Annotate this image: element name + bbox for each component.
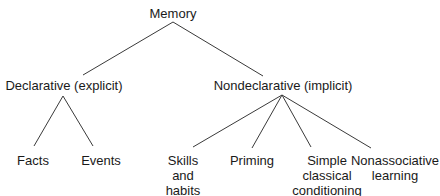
node-facts: Facts [8, 153, 58, 168]
edge-nondeclarative-skills [193, 95, 282, 147]
edge-declarative-events [63, 96, 93, 146]
node-classical-line-3: conditioning [289, 183, 365, 196]
edge-memory-nondeclarative [173, 22, 263, 76]
node-priming-line-1: Priming [222, 153, 282, 168]
node-skills-and-habits: Skills and habits [158, 153, 208, 196]
edge-nondeclarative-priming [252, 95, 282, 148]
node-skills-line-3: habits [158, 183, 208, 196]
edge-nondeclarative-nonassociative [282, 95, 371, 148]
node-priming: Priming [222, 153, 282, 168]
node-nonassociative-learning: Nonassociative learning [350, 153, 440, 183]
edge-declarative-facts [34, 96, 63, 146]
edge-nondeclarative-classical [282, 95, 311, 147]
edge-memory-declarative [83, 22, 173, 75]
node-nonassociative-line-1: Nonassociative [350, 153, 440, 168]
node-declarative: Declarative (explicit) [4, 78, 124, 93]
node-events: Events [76, 153, 126, 168]
node-nonassociative-line-2: learning [350, 168, 440, 183]
node-skills-line-1: Skills [158, 153, 208, 168]
node-skills-line-2: and [158, 168, 208, 183]
node-nondeclarative: Nondeclarative (implicit) [212, 78, 354, 93]
node-memory: Memory [143, 6, 203, 21]
